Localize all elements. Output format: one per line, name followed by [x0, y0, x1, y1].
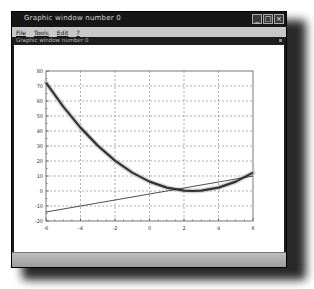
minimize-button[interactable]: _ [252, 14, 262, 24]
x-tick-label: 0 [148, 225, 151, 231]
y-tick-label: 30 [37, 143, 43, 149]
x-tick-label: 6 [251, 225, 254, 231]
y-tick-label: 60 [37, 98, 43, 104]
y-tick-label: 70 [37, 83, 43, 89]
y-tick-label: 20 [37, 158, 43, 164]
x-tick-label: -4 [78, 225, 83, 231]
maximize-button[interactable]: □ [263, 14, 273, 24]
window-title: Graphic window number 0 [24, 14, 121, 22]
menu-bar: File Tools Edit ? [12, 27, 286, 37]
menu-file[interactable]: File [16, 29, 26, 36]
x-tick-label: -6 [44, 225, 49, 231]
x-tick-label: -2 [113, 225, 118, 231]
resize-grip-icon [279, 39, 282, 42]
y-tick-label: -20 [35, 218, 43, 224]
graphic-subtitle: Graphic window number 0 [16, 37, 89, 43]
plot-frame [46, 71, 253, 221]
y-tick-label: 50 [37, 113, 43, 119]
menu-tools[interactable]: Tools [34, 29, 49, 36]
graphic-window: Graphic window number 0 _ □ × File Tools… [11, 11, 287, 268]
minimize-icon: _ [253, 14, 261, 24]
close-icon: × [275, 14, 283, 24]
close-button[interactable]: × [274, 14, 284, 24]
y-tick-label: 80 [37, 68, 43, 74]
title-bar[interactable]: Graphic window number 0 _ □ × [12, 12, 286, 27]
menu-help[interactable]: ? [76, 29, 79, 36]
y-tick-label: 10 [37, 173, 43, 179]
y-tick-label: 40 [37, 128, 43, 134]
y-tick-label: -10 [35, 203, 43, 209]
x-tick-label: 4 [217, 225, 220, 231]
menu-edit[interactable]: Edit [57, 29, 69, 36]
maximize-icon: □ [264, 14, 272, 24]
window-controls: _ □ × [252, 14, 284, 24]
x-tick-label: 2 [182, 225, 185, 231]
graphic-subtitle-bar: Graphic window number 0 [12, 37, 286, 45]
status-bar [12, 252, 286, 267]
y-tick-label: 0 [40, 188, 43, 194]
plot-canvas[interactable]: -6-4-20246-20-1001020304050607080 [14, 45, 284, 253]
plot: -6-4-20246-20-1001020304050607080 [14, 45, 286, 253]
